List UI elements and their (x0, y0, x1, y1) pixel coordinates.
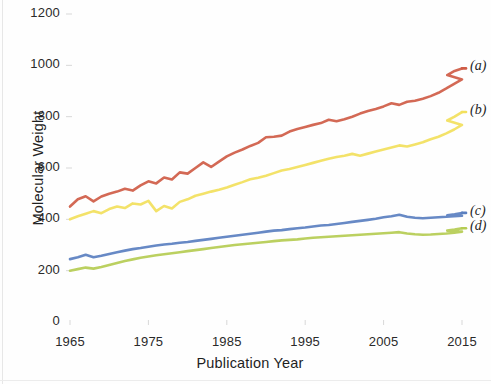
line-chart-plot (0, 0, 491, 384)
series-label-a: (a) (470, 58, 486, 74)
y-tick-label: 0 (20, 313, 60, 328)
y-axis-title: Molecular Weight (30, 83, 46, 253)
series-line-a (70, 68, 462, 206)
x-tick-label: 1965 (48, 334, 92, 349)
x-tick-label: 1975 (126, 334, 170, 349)
x-tick-label: 2015 (440, 334, 484, 349)
series-line-c (70, 213, 462, 259)
y-tick-label: 1000 (20, 56, 60, 71)
series-label-d: (d) (470, 218, 486, 234)
x-tick-label: 1995 (283, 334, 327, 349)
x-tick-label: 1985 (205, 334, 249, 349)
y-tick-label: 1200 (20, 5, 60, 20)
x-tick-label: 2005 (362, 334, 406, 349)
series-label-b: (b) (470, 102, 486, 118)
series-line-b (70, 112, 462, 219)
x-axis-title: Publication Year (150, 355, 350, 371)
series-label-c: (c) (470, 203, 486, 219)
figure-canvas: 020040060080010001200 196519751985199520… (0, 0, 491, 384)
y-tick-label: 200 (20, 262, 60, 277)
